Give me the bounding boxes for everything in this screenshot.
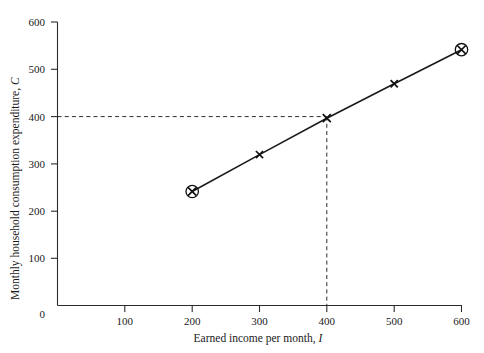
y-tick-label-100: 100: [29, 252, 46, 264]
data-point-500: [391, 80, 398, 87]
marker-x-300: [256, 151, 263, 158]
y-axis-title-var: C: [9, 77, 21, 85]
y-tick-label-400: 400: [29, 111, 46, 123]
marker-x-400: [323, 114, 331, 122]
y-axis-title-text: Monthly household consumption expenditur…: [9, 88, 22, 300]
x-axis-title: Earned income per month,I: [194, 332, 324, 345]
y-tick-marks: [51, 22, 58, 258]
x-axis-title-text: Earned income per month,: [194, 332, 316, 345]
marker-x-600: [457, 46, 465, 54]
x-tick-label-400: 400: [319, 315, 336, 327]
x-tick-label-300: 300: [251, 315, 268, 327]
y-tick-label-600: 600: [29, 16, 46, 28]
marker-x-200: [188, 187, 196, 195]
x-axis-title-var: I: [318, 332, 324, 344]
x-tick-labels: 100 200 300 400 500 600: [117, 315, 471, 327]
data-point-200: [186, 185, 198, 197]
data-point-300: [256, 151, 263, 158]
y-axis-title: Monthly household consumption expenditur…: [9, 77, 22, 300]
data-point-600: [455, 44, 467, 56]
y-tick-label-0: 0: [40, 308, 46, 320]
x-tick-marks: [125, 306, 462, 313]
y-tick-label-200: 200: [29, 205, 46, 217]
chart-container: 600 500 400 300 200 100 0 100 200 300 40…: [0, 0, 484, 353]
x-tick-label-500: 500: [386, 315, 403, 327]
data-point-400: [323, 114, 331, 122]
consumption-function-chart: 600 500 400 300 200 100 0 100 200 300 40…: [0, 0, 484, 353]
axis-group: [58, 22, 463, 306]
x-tick-label-200: 200: [184, 315, 201, 327]
marker-x-500: [391, 80, 398, 87]
y-tick-label-500: 500: [29, 63, 46, 75]
x-tick-label-100: 100: [117, 315, 134, 327]
x-tick-label-600: 600: [453, 315, 470, 327]
y-tick-labels: 600 500 400 300 200 100 0: [29, 16, 46, 320]
reference-guides: [58, 117, 327, 306]
y-tick-label-300: 300: [29, 158, 46, 170]
